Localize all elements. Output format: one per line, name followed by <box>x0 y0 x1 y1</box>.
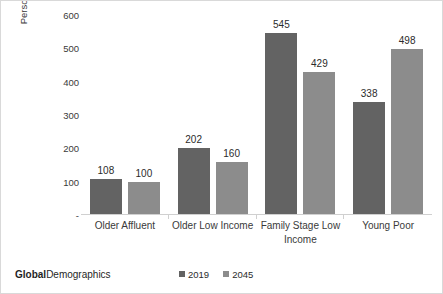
bar-group: 108100 <box>81 15 169 215</box>
legend-item-2019[interactable]: 2019 <box>179 269 209 280</box>
bar-value-label: 108 <box>98 165 115 176</box>
y-axis-tick-500: 500 <box>49 43 79 54</box>
chart-legend: 20192045 <box>179 269 253 280</box>
bar-value-label: 160 <box>223 148 240 159</box>
x-axis-category-labels: Older AffluentOlder Low IncomeFamily Sta… <box>81 219 432 246</box>
bar-2045[interactable] <box>391 49 423 215</box>
bar-value-label: 498 <box>399 35 416 46</box>
bar-2045[interactable] <box>303 72 335 215</box>
legend-label: 2019 <box>188 269 209 280</box>
bar-slot: 108 <box>90 15 122 215</box>
bar-slot: 202 <box>178 15 210 215</box>
plot-area: 108100202160545429338498 <box>81 15 432 215</box>
chart-card: Persons (Mns) aged 5 to 14 yrs (School A… <box>0 0 443 294</box>
brand-strong-text: Global <box>15 269 46 280</box>
bar-slot: 338 <box>353 15 385 215</box>
bar-value-label: 338 <box>361 88 378 99</box>
brand-logo: GlobalDemographics <box>15 269 111 280</box>
legend-label: 2045 <box>232 269 253 280</box>
bar-2019[interactable] <box>90 179 122 215</box>
y-axis-tick-0: - <box>49 210 79 221</box>
y-axis-title: Persons (Mns) aged 5 to 14 yrs (School A… <box>14 0 48 53</box>
bar-value-label: 429 <box>311 58 328 69</box>
bar-slot: 160 <box>216 15 248 215</box>
y-axis-tick-600: 600 <box>49 10 79 21</box>
y-axis-tick-labels: -100200300400500600 <box>49 15 79 215</box>
bar-2045[interactable] <box>128 182 160 215</box>
x-axis-baseline <box>81 214 432 215</box>
x-axis-label: Older Affluent <box>81 219 169 246</box>
bar-value-label: 545 <box>273 19 290 30</box>
bar-slot: 100 <box>128 15 160 215</box>
x-axis-label: Young Poor <box>344 219 432 246</box>
bar-2019[interactable] <box>178 148 210 215</box>
y-axis-tick-100: 100 <box>49 176 79 187</box>
chart-footer: GlobalDemographics 20192045 <box>1 263 442 285</box>
bar-slot: 429 <box>303 15 335 215</box>
x-axis-label: Family Stage Low Income <box>257 219 345 246</box>
bar-slot: 498 <box>391 15 423 215</box>
bar-slot: 545 <box>265 15 297 215</box>
y-axis-tick-300: 300 <box>49 110 79 121</box>
bar-group: 202160 <box>169 15 257 215</box>
legend-swatch-icon <box>179 271 185 277</box>
bar-groups: 108100202160545429338498 <box>81 15 432 215</box>
legend-swatch-icon <box>223 271 229 277</box>
legend-item-2045[interactable]: 2045 <box>223 269 253 280</box>
x-axis-label: Older Low Income <box>169 219 257 246</box>
bar-group: 545429 <box>257 15 345 215</box>
bar-2045[interactable] <box>216 162 248 215</box>
bar-2019[interactable] <box>265 33 297 215</box>
bar-group: 338498 <box>344 15 432 215</box>
bar-value-label: 100 <box>136 168 153 179</box>
brand-light-text: Demographics <box>46 269 110 280</box>
bar-value-label: 202 <box>185 134 202 145</box>
y-axis-title-line-1: Persons (Mns) aged 5 to 14 yrs <box>18 0 31 24</box>
bar-2019[interactable] <box>353 102 385 215</box>
y-axis-tick-400: 400 <box>49 76 79 87</box>
y-axis-tick-200: 200 <box>49 143 79 154</box>
